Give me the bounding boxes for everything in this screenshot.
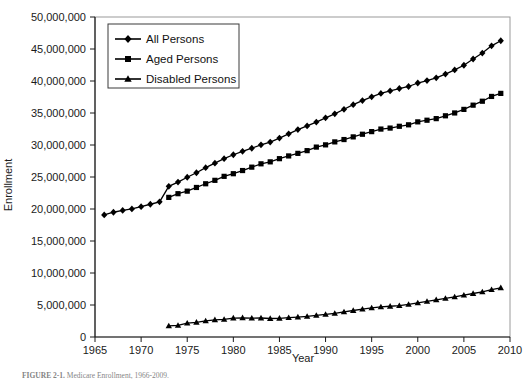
- marker-square: [351, 134, 356, 139]
- figure-caption-text: Medicare Enrollment, 1966-2009.: [67, 371, 169, 379]
- marker-square: [194, 185, 199, 190]
- marker-square: [360, 132, 365, 137]
- marker-square: [249, 165, 254, 170]
- x-axis-title: Year: [292, 352, 315, 364]
- y-tick-label: 40,000,000: [31, 75, 86, 87]
- marker-square: [369, 129, 374, 134]
- marker-square: [397, 124, 402, 129]
- x-tick-label: 2000: [406, 344, 430, 356]
- x-tick-label: 1970: [129, 344, 153, 356]
- y-tick-label: 5,000,000: [37, 299, 86, 311]
- marker-square: [471, 103, 476, 108]
- marker-square: [388, 125, 393, 130]
- y-tick-label: 15,000,000: [31, 235, 86, 247]
- marker-square: [295, 151, 300, 156]
- marker-square: [222, 174, 227, 179]
- marker-square: [305, 148, 310, 153]
- x-tick-label: 2010: [498, 344, 522, 356]
- x-tick-label: 1995: [359, 344, 383, 356]
- marker-square: [240, 168, 245, 173]
- marker-square: [286, 153, 291, 158]
- marker-square: [332, 139, 337, 144]
- figure-caption: FIGURE 2-1. Medicare Enrollment, 1966-20…: [22, 371, 169, 379]
- marker-square: [125, 56, 131, 62]
- marker-square: [443, 113, 448, 118]
- marker-square: [434, 116, 439, 121]
- marker-square: [480, 99, 485, 104]
- legend-label: All Persons: [146, 33, 204, 45]
- marker-square: [378, 126, 383, 131]
- y-tick-label: 45,000,000: [31, 43, 86, 55]
- y-tick-label: 20,000,000: [31, 203, 86, 215]
- y-tick-label: 50,000,000: [31, 11, 86, 23]
- marker-square: [268, 159, 273, 164]
- marker-square: [452, 110, 457, 115]
- marker-square: [314, 144, 319, 149]
- marker-square: [212, 178, 217, 183]
- marker-square: [415, 119, 420, 124]
- figure-container: 05,000,00010,000,00015,000,00020,000,000…: [0, 0, 525, 379]
- y-tick-label: 0: [80, 331, 86, 343]
- marker-square: [406, 122, 411, 127]
- enrollment-line-chart: 05,000,00010,000,00015,000,00020,000,000…: [0, 0, 525, 379]
- x-tick-label: 1975: [175, 344, 199, 356]
- marker-square: [258, 161, 263, 166]
- chart-legend: All PersonsAged PersonsDisabled Persons: [108, 24, 239, 88]
- y-tick-label: 35,000,000: [31, 107, 86, 119]
- x-tick-label: 1990: [313, 344, 337, 356]
- marker-square: [277, 156, 282, 161]
- legend-label: Aged Persons: [146, 53, 218, 65]
- x-tick-label: 1965: [83, 344, 107, 356]
- figure-caption-number: FIGURE 2-1.: [22, 371, 65, 379]
- x-tick-label: 1985: [267, 344, 291, 356]
- marker-square: [185, 189, 190, 194]
- y-axis-ticks: 05,000,00010,000,00015,000,00020,000,000…: [31, 11, 95, 343]
- y-axis-title: Enrollment: [2, 159, 14, 212]
- legend-label: Disabled Persons: [146, 73, 236, 85]
- marker-square: [341, 137, 346, 142]
- y-tick-label: 25,000,000: [31, 171, 86, 183]
- y-tick-label: 10,000,000: [31, 267, 86, 279]
- x-tick-label: 1980: [221, 344, 245, 356]
- marker-square: [231, 171, 236, 176]
- marker-square: [203, 181, 208, 186]
- y-tick-label: 30,000,000: [31, 139, 86, 151]
- marker-square: [461, 107, 466, 112]
- marker-square: [489, 94, 494, 99]
- marker-square: [175, 191, 180, 196]
- marker-square: [166, 195, 171, 200]
- marker-square: [424, 118, 429, 123]
- x-tick-label: 2005: [452, 344, 476, 356]
- marker-square: [323, 142, 328, 147]
- marker-square: [498, 91, 503, 96]
